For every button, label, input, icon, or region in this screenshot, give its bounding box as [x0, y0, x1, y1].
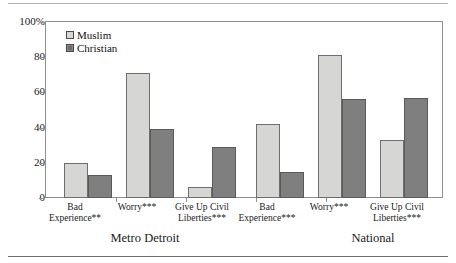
- x-label-group-0-line2: Experience**: [40, 213, 110, 224]
- x-label-group-0: Bad Experience**: [40, 202, 110, 224]
- x-label-group-4: Worry***: [294, 202, 364, 213]
- bar-christian-4: [342, 99, 366, 198]
- figure-bar-chart: 100% 80 60 40 20 0 Bad: [0, 0, 456, 263]
- bar-christian-5: [404, 98, 428, 198]
- legend-swatch-muslim-icon: [66, 31, 74, 39]
- bar-muslim-3: [256, 124, 280, 198]
- legend-label-muslim: Muslim: [77, 29, 111, 41]
- x-label-group-3-line2: Experience***: [232, 213, 302, 224]
- legend-label-christian: Christian: [77, 42, 117, 54]
- panel-title-metro-detroit: Metro Detroit: [85, 231, 205, 245]
- bar-muslim-1: [126, 73, 150, 198]
- x-label-group-2: Give Up Civil Liberties***: [163, 202, 241, 224]
- legend: Muslim Christian: [66, 29, 117, 55]
- x-label-group-2-line2: Liberties***: [163, 213, 241, 224]
- panel-title-national: National: [318, 231, 428, 245]
- legend-item-muslim: Muslim: [66, 29, 117, 41]
- x-label-group-3-line1: Bad: [232, 202, 302, 213]
- top-rule: [8, 3, 448, 4]
- x-label-group-4-line1: Worry***: [294, 202, 364, 213]
- bar-christian-1: [150, 129, 174, 198]
- bar-muslim-5: [380, 140, 404, 198]
- bar-muslim-2: [188, 187, 212, 198]
- x-label-group-5-line2: Liberties***: [355, 213, 439, 224]
- bar-christian-3: [280, 172, 304, 198]
- y-axis: 100% 80 60 40 20 0: [0, 0, 45, 200]
- x-label-group-0-line1: Bad: [40, 202, 110, 213]
- legend-item-christian: Christian: [66, 42, 117, 54]
- bar-muslim-4: [318, 55, 342, 198]
- bar-christian-2: [212, 147, 236, 198]
- x-label-group-5: Give Up Civil Liberties***: [355, 202, 439, 224]
- bar-muslim-0: [64, 163, 88, 198]
- y-tick-0: [39, 198, 45, 199]
- x-label-group-3: Bad Experience***: [232, 202, 302, 224]
- legend-swatch-christian-icon: [66, 44, 74, 52]
- bar-christian-0: [88, 175, 112, 198]
- x-label-group-2-line1: Give Up Civil: [163, 202, 241, 213]
- x-label-group-1: Worry***: [102, 202, 172, 213]
- bottom-rule: [8, 256, 448, 257]
- x-label-group-5-line1: Give Up Civil: [355, 202, 439, 213]
- x-label-group-1-line1: Worry***: [102, 202, 172, 213]
